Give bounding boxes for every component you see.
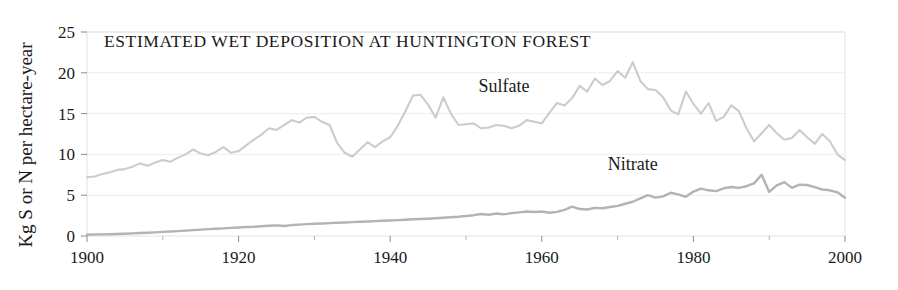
chart-figure: 190019201940196019802000 0510152025 ESTI… xyxy=(0,0,898,290)
y-tick-label-0: 0 xyxy=(67,227,76,246)
sulfate-series-label: Sulfate xyxy=(478,76,529,96)
y-tick-label-5: 5 xyxy=(67,186,76,205)
y-tick-label-25: 25 xyxy=(58,23,75,42)
y-tick-label-20: 20 xyxy=(58,64,75,83)
y-tick-label-15: 15 xyxy=(58,105,75,124)
y-tick-label-10: 10 xyxy=(58,145,75,164)
deposition-line-chart: 190019201940196019802000 0510152025 ESTI… xyxy=(0,0,898,290)
y-axis-label: Kg S or N per hectare-year xyxy=(15,42,36,248)
x-tick-label-1920: 1920 xyxy=(222,248,256,267)
x-tick-label-2000: 2000 xyxy=(828,248,862,267)
chart-title: ESTIMATED WET DEPOSITION AT HUNTINGTON F… xyxy=(104,31,591,51)
x-tick-label-1960: 1960 xyxy=(525,248,559,267)
x-tick-label-1980: 1980 xyxy=(676,248,710,267)
nitrate-series-label: Nitrate xyxy=(608,154,658,174)
x-tick-label-1900: 1900 xyxy=(70,248,104,267)
x-tick-label-1940: 1940 xyxy=(373,248,407,267)
